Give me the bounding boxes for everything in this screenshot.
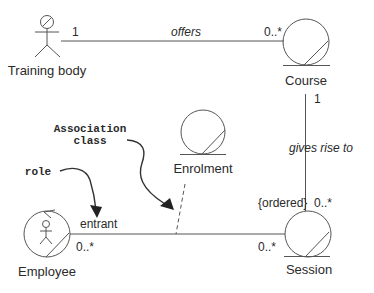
gives-mult-top: 1 xyxy=(314,92,321,106)
offers-mult-right: 0..* xyxy=(264,25,282,39)
course-label: Course xyxy=(285,73,327,88)
session-entity-icon xyxy=(284,211,331,257)
gives-mult-bottom: 0..* xyxy=(314,196,332,210)
offers-label: offers xyxy=(171,25,201,39)
employee-mult: 0..* xyxy=(76,240,94,254)
association-class-note-line2: class xyxy=(73,135,106,147)
ordered-constraint: {ordered} xyxy=(258,196,307,210)
session-label: Session xyxy=(286,262,332,277)
session-mult: 0..* xyxy=(258,240,276,254)
entrant-role-label: entrant xyxy=(80,217,118,231)
role-note: role xyxy=(25,166,52,178)
association-class-note-line1: Association xyxy=(54,123,127,135)
employee-entity-icon xyxy=(24,210,70,257)
enrolment-entity-icon xyxy=(180,110,226,155)
training-body-label: Training body xyxy=(8,63,87,78)
enrolment-label: Enrolment xyxy=(173,161,233,176)
offers-mult-left: 1 xyxy=(72,25,79,39)
association-class-dashed-link xyxy=(176,184,185,234)
role-pointer-arrow-icon xyxy=(60,168,102,218)
course-entity-icon xyxy=(283,19,330,66)
uml-diagram: Training body 1 offers 0..* Course 1 giv… xyxy=(0,0,374,293)
gives-rise-to-label: gives rise to xyxy=(289,141,353,155)
training-body-actor-icon xyxy=(35,16,60,58)
employee-label: Employee xyxy=(18,264,76,279)
association-class-pointer-arrow-icon xyxy=(127,140,174,210)
